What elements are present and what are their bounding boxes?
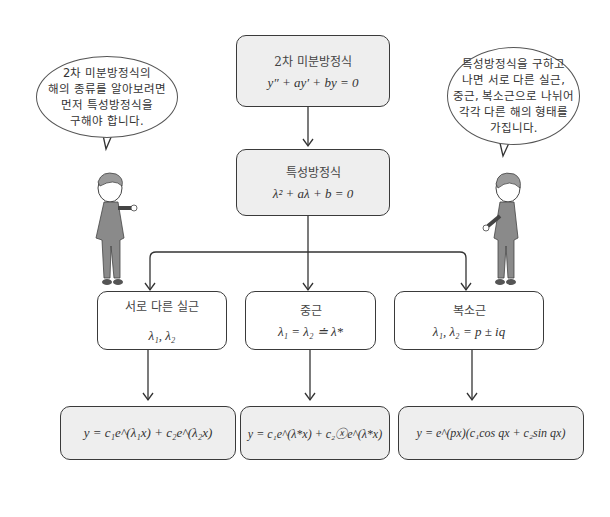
distinct-real-title: 서로 다른 실근 — [125, 297, 199, 314]
ode-box: 2차 미분방정식 y″ + ay′ + by = 0 — [236, 35, 390, 107]
presenter-left-illustration — [88, 168, 138, 290]
presenter-right-illustration — [480, 168, 530, 290]
complex-roots-solution: y = e^(px)(c₁cos qx + c₂sin qx) — [417, 426, 566, 441]
characteristic-title: 특성방정식 — [286, 163, 341, 180]
speech-bubble-right: 특성방정식을 구하고 나면 서로 다른 실근, 중근, 복소근으로 나뉘어 각각… — [447, 47, 580, 145]
repeated-root-title: 중근 — [300, 301, 322, 318]
distinct-real-solution: y = c₁e^(λ₁x) + c₂e^(λ₂x) — [84, 425, 213, 441]
characteristic-equation-box: 특성방정식 λ² + aλ + b = 0 — [236, 149, 390, 216]
complex-roots-box: 복소근 λ₁, λ₂ = p ± iq — [394, 291, 544, 350]
complex-roots-solution-box: y = e^(px)(c₁cos qx + c₂sin qx) — [398, 406, 584, 460]
characteristic-equation: λ² + aλ + b = 0 — [273, 186, 353, 202]
ode-title: 2차 미분방정식 — [274, 52, 351, 69]
distinct-real-roots: λ₁, λ₂ — [149, 328, 176, 344]
repeated-root-value: λ₁ = λ₂ ≐ λ* — [278, 324, 343, 340]
repeated-root-solution: y = c₁e^(λ*x) + c₂ⓧe^(λ*x) — [248, 424, 382, 442]
repeated-root-solution-box: y = c₁e^(λ*x) + c₂ⓧe^(λ*x) — [240, 406, 390, 460]
speech-bubble-left: 2차 미분방정식의 해의 종류를 알아보려면 먼저 특성방정식을 구해야 합니다… — [36, 56, 178, 138]
ode-equation: y″ + ay′ + by = 0 — [268, 75, 359, 91]
complex-roots-title: 복소근 — [453, 301, 486, 318]
complex-roots-value: λ₁, λ₂ = p ± iq — [433, 324, 505, 340]
distinct-real-roots-box: 서로 다른 실근 λ₁, λ₂ — [97, 291, 227, 350]
distinct-real-solution-box: y = c₁e^(λ₁x) + c₂e^(λ₂x) — [60, 406, 236, 460]
repeated-root-box: 중근 λ₁ = λ₂ ≐ λ* — [245, 291, 376, 350]
